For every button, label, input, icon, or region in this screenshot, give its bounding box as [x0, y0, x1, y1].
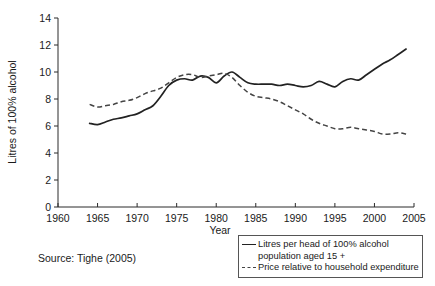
x-tick-label: 2000 [363, 212, 387, 224]
legend-label-litres: Litres per head of 100% alcohol populati… [258, 239, 389, 262]
chart-legend: Litres per head of 100% alcohol populati… [238, 235, 423, 278]
source-note: Source: Tighe (2005) [38, 252, 136, 264]
y-axis-ticks: 02468101214 [39, 12, 58, 213]
y-tick-label: 2 [45, 174, 51, 186]
y-tick-label: 8 [45, 93, 51, 105]
x-tick-label: 1995 [323, 212, 347, 224]
legend-label-price: Price relative to household expenditure [258, 262, 419, 274]
y-axis-title: Litres of 100% alcohol [6, 60, 18, 163]
y-tick-label: 12 [39, 39, 51, 51]
x-tick-label: 1960 [46, 212, 70, 224]
chart-axes [58, 18, 414, 207]
x-tick-label: 1980 [205, 212, 229, 224]
chart-figure: 02468101214 1960196519701975198019851990… [0, 0, 435, 286]
series-line-litres [90, 49, 406, 125]
x-axis-title: Year [209, 224, 231, 236]
x-tick-label: 1965 [86, 212, 110, 224]
legend-label-litres-line1: Litres per head of 100% alcohol [258, 239, 389, 249]
legend-label-litres-line2: population aged 15 + [258, 251, 389, 263]
x-axis-ticks: 1960196519701975198019851990199520002005 [46, 203, 426, 224]
y-tick-label: 14 [39, 12, 51, 24]
chart-series-group [90, 49, 406, 134]
dashed-line-sample-icon [241, 262, 257, 273]
x-tick-label: 1975 [165, 212, 189, 224]
legend-item-price: Price relative to household expenditure [241, 262, 419, 274]
y-tick-label: 10 [39, 66, 51, 78]
x-tick-label: 1985 [244, 212, 268, 224]
y-tick-label: 4 [45, 147, 51, 159]
legend-item-litres: Litres per head of 100% alcohol populati… [241, 239, 419, 262]
x-tick-label: 1990 [284, 212, 308, 224]
y-tick-label: 6 [45, 120, 51, 132]
solid-line-sample-icon [241, 239, 257, 250]
x-tick-label: 1970 [125, 212, 149, 224]
y-tick-label: 0 [45, 201, 51, 213]
x-tick-label: 2005 [402, 212, 426, 224]
